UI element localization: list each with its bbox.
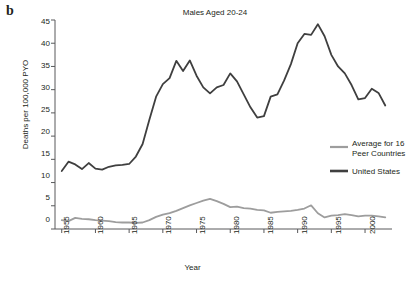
x-axis-label: Year [60, 263, 325, 272]
x-tick-label: 1975 [199, 216, 207, 234]
y-axis-ticks [51, 20, 55, 229]
y-tick-label: 5 [28, 194, 50, 202]
legend-label-peer-line1: Average for 16 [352, 139, 404, 148]
y-axis-label: Deaths per 100,000 PYO [21, 25, 30, 185]
chart-title: Males Aged 20-24 [110, 8, 320, 18]
figure-panel-b: b Males Aged 20-24 Deaths per 100,000 PY… [0, 0, 416, 281]
x-tick-label: 1955 [63, 216, 71, 234]
legend-label-united-states: United States [352, 167, 400, 177]
y-tick-label: 25 [28, 106, 50, 114]
x-tick-label: 1990 [301, 216, 309, 234]
x-tick-label: 1960 [97, 216, 105, 234]
x-tick-label: 1970 [165, 216, 173, 234]
x-tick-label: 2000 [369, 216, 377, 234]
y-tick-label: 45 [28, 18, 50, 26]
y-tick-label: 40 [28, 40, 50, 48]
legend-label-peer-line2: Peer Countries [352, 149, 405, 158]
x-tick-label: 1985 [267, 216, 275, 234]
x-tick-label: 1995 [335, 216, 343, 234]
y-tick-label: 35 [28, 62, 50, 70]
series-line-united-states [62, 24, 386, 171]
y-tick-label: 15 [28, 150, 50, 158]
legend-label-peer-countries: Average for 16 Peer Countries [352, 139, 405, 159]
x-tick-label: 1965 [131, 216, 139, 234]
y-tick-label: 0 [28, 216, 50, 224]
y-tick-label: 20 [28, 128, 50, 136]
y-tick-label: 30 [28, 84, 50, 92]
x-axis-ticks [62, 229, 365, 233]
panel-label: b [6, 4, 14, 18]
y-tick-label: 10 [28, 172, 50, 180]
x-tick-label: 1980 [233, 216, 241, 234]
